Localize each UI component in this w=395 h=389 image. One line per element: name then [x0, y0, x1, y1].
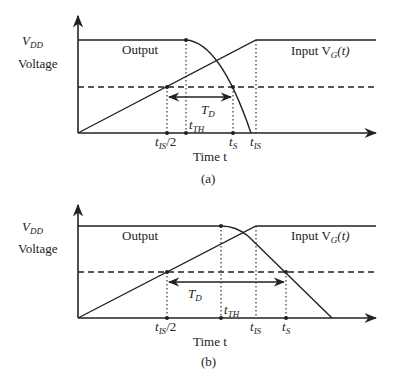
output-label: Output: [122, 228, 159, 243]
tick-label-tis-half: tIS/2: [155, 134, 176, 151]
tick-label-tis: tIS: [250, 319, 262, 336]
point: [219, 224, 223, 228]
output-label: Output: [122, 42, 159, 57]
tick-label-tth: tTH: [224, 302, 240, 319]
vdd-label: VDD: [22, 219, 43, 236]
input-label: Input VG(t): [291, 228, 350, 245]
y-axis-label: Voltage: [18, 241, 58, 256]
point: [184, 131, 188, 135]
x-axis-label: Time t: [193, 334, 227, 349]
y-axis-label: Voltage: [18, 56, 58, 71]
tick-label-tis-half: tIS/2: [155, 319, 176, 336]
td-label: TD: [201, 102, 215, 119]
vdd-label: VDD: [22, 33, 43, 50]
point: [165, 270, 169, 274]
panel-a: VDD Voltage TD Output Input VG(t) tIS/2 …: [18, 16, 376, 186]
tick-label-ts: tS: [229, 134, 238, 151]
tick-label-tth: tTH: [189, 117, 205, 134]
panel-b: VDD Voltage TD Output Input VG(t) tIS/2 …: [18, 205, 376, 369]
point: [231, 85, 235, 89]
point: [165, 85, 169, 89]
point: [284, 270, 288, 274]
tick-label-ts: tS: [282, 319, 291, 336]
td-label: TD: [188, 286, 202, 303]
point: [184, 38, 188, 42]
timing-diagram: VDD Voltage TD Output Input VG(t) tIS/2 …: [0, 0, 395, 389]
tick-label-tis: tIS: [250, 134, 262, 151]
x-axis-label: Time t: [193, 149, 227, 164]
panel-caption: (a): [201, 171, 215, 186]
point: [219, 316, 223, 320]
panel-caption: (b): [201, 354, 216, 369]
input-label: Input VG(t): [291, 43, 350, 60]
